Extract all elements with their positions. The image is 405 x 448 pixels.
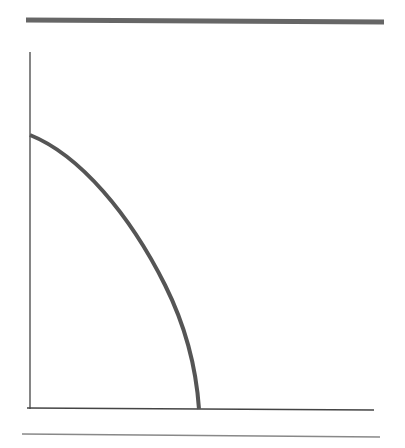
chart-figure xyxy=(0,0,405,448)
top-rule xyxy=(26,20,384,22)
frontier-curve xyxy=(30,135,199,409)
bottom-rule xyxy=(22,434,380,437)
